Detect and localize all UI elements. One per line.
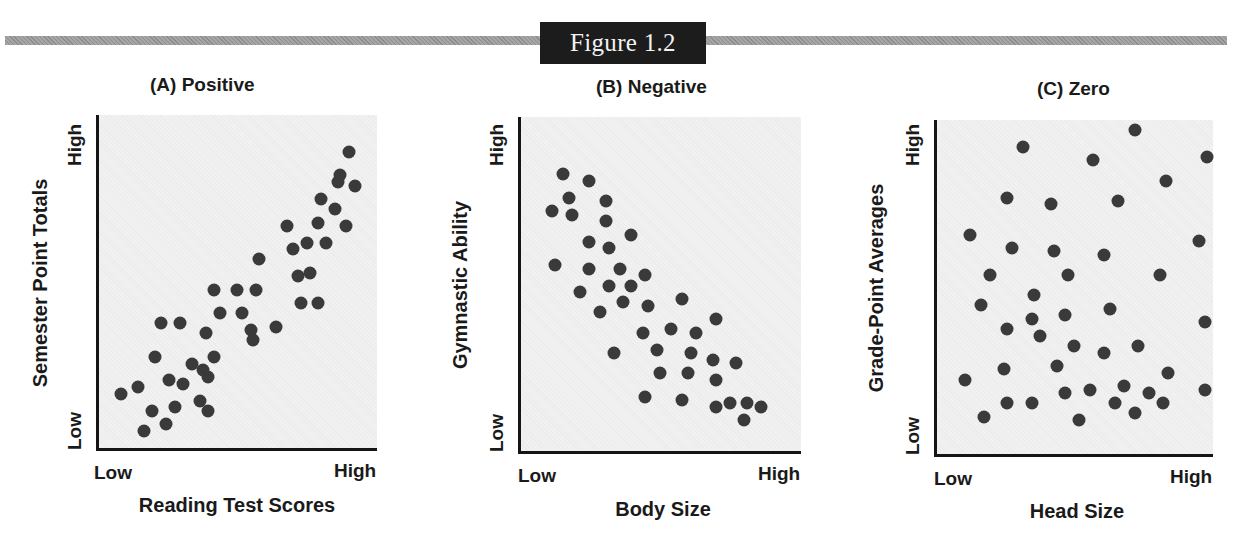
data-point [199,327,212,340]
data-point [314,193,327,206]
data-point [1117,380,1130,393]
data-point [1067,339,1080,352]
data-point [1103,302,1116,315]
y-tick-low: Low [486,414,508,452]
x-axis [934,454,1213,457]
data-point [1025,312,1038,325]
data-point [1193,235,1206,248]
data-point [676,394,689,407]
data-point [1087,154,1100,167]
data-point [710,313,723,326]
data-point [1000,322,1013,335]
data-point [594,306,607,319]
y-axis [518,117,521,454]
data-point [213,307,226,320]
data-point [1000,191,1013,204]
data-point [348,179,361,192]
data-point [738,414,751,427]
data-point [163,374,176,387]
y-tick-low: Low [902,417,924,455]
data-point [1131,339,1144,352]
data-point [1098,346,1111,359]
data-point [311,216,324,229]
y-axis-label: Grade-Point Averages [865,184,888,393]
data-point [1153,269,1166,282]
x-tick-low: Low [518,465,556,487]
data-point [168,401,181,414]
data-point [983,269,996,282]
data-point [149,350,162,363]
y-axis [96,115,99,451]
figure-label: Figure 1.2 [540,22,706,64]
data-point [281,219,294,232]
data-point [958,373,971,386]
y-tick-low: Low [64,412,86,450]
data-point [1128,407,1141,420]
data-point [1128,124,1141,137]
data-point [252,253,265,266]
data-point [724,397,737,410]
data-point [236,307,249,320]
data-point [202,404,215,417]
data-point [137,424,150,437]
data-point [1061,269,1074,282]
data-point [755,400,768,413]
data-point [1000,397,1013,410]
data-point [334,169,347,182]
x-tick-low: Low [934,468,972,490]
y-axis [934,120,937,457]
data-point [599,195,612,208]
data-point [320,236,333,249]
y-tick-high: High [902,124,924,166]
data-point [599,215,612,228]
data-point [653,367,666,380]
data-point [1017,140,1030,153]
y-axis-label: Gymnastic Ability [449,201,472,369]
data-point [1201,151,1214,164]
data-point [1034,329,1047,342]
data-point [582,235,595,248]
data-point [1198,316,1211,329]
data-point [1109,397,1122,410]
data-point [177,377,190,390]
data-point [710,400,723,413]
x-tick-high: High [1170,466,1212,488]
data-point [295,297,308,310]
data-point [625,279,638,292]
data-point [997,363,1010,376]
data-point [1098,248,1111,261]
data-point [1159,174,1172,187]
x-tick-high: High [334,460,376,482]
x-tick-high: High [758,463,800,485]
data-point [269,320,282,333]
data-point [625,228,638,241]
data-point [710,373,723,386]
data-point [1073,413,1086,426]
data-point [639,390,652,403]
data-point [208,283,221,296]
data-point [608,346,621,359]
data-point [681,367,694,380]
data-point [1162,366,1175,379]
plot-area [934,120,1213,457]
x-axis [96,448,377,451]
data-point [557,168,570,181]
data-point [146,404,159,417]
data-point [303,266,316,279]
data-point [639,269,652,282]
data-point [964,228,977,241]
data-point [582,175,595,188]
plot-area [96,115,377,451]
data-point [565,208,578,221]
data-point [676,292,689,305]
data-point [582,262,595,275]
data-point [636,326,649,339]
data-point [1047,245,1060,258]
data-point [154,317,167,330]
data-point [975,299,988,312]
data-point [650,343,663,356]
data-point [311,297,324,310]
panel-title: (A) Positive [150,74,255,96]
data-point [574,286,587,299]
data-point [340,219,353,232]
